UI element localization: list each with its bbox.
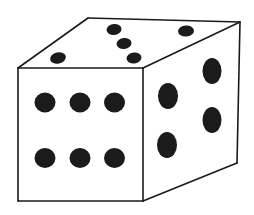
front-pip-4 [35, 148, 56, 168]
front-pip-3 [104, 93, 125, 113]
die-illustration [0, 0, 254, 215]
right-pip-2 [203, 58, 222, 84]
right-pip-4 [203, 107, 222, 133]
die-svg [0, 0, 254, 215]
front-pip-2 [70, 93, 91, 113]
right-pip-1 [158, 83, 178, 109]
right-pip-3 [157, 132, 177, 158]
front-pip-6 [104, 148, 125, 168]
front-face [18, 68, 143, 201]
front-pip-5 [70, 148, 91, 168]
front-pip-1 [35, 93, 56, 113]
